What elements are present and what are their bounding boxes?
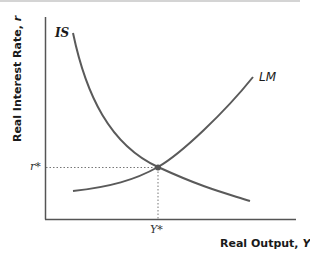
equilibrium-point [155,165,161,171]
y-star-label: Y* [150,223,163,236]
x-axis-label: Real Output, Y [220,237,310,250]
y-axis-label-var: r [11,16,24,21]
lm-curve [73,77,253,191]
x-axis-label-var: Y [302,237,310,250]
y-axis-label: Real Interest Rate, r [11,16,24,142]
r-star-label: r* [30,160,41,173]
is-curve [73,33,250,201]
is-curve-label: IS [55,26,69,40]
lm-curve-label: LM [259,70,276,84]
is-lm-chart [0,0,310,258]
y-axis-label-text: Real Interest Rate, [11,21,24,142]
x-axis-label-text: Real Output, [220,237,302,250]
